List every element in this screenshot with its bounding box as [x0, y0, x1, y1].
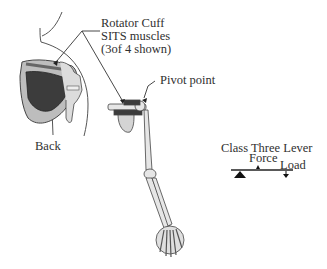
arm-skeleton	[108, 100, 184, 257]
pivot-point-label: Pivot point	[160, 74, 215, 87]
back-label: Back	[35, 140, 61, 153]
scapula-back-view	[20, 60, 82, 123]
load-arrow-icon	[283, 174, 289, 178]
force-label: Force	[249, 152, 277, 165]
load-label: Load	[280, 159, 306, 172]
fulcrum-icon	[234, 171, 246, 178]
force-arrow-icon	[256, 165, 260, 169]
rotator-cuff-label: Rotator Cuff SITS muscles (3of 4 shown)	[101, 17, 171, 56]
rotator-cuff-line-3: (3of 4 shown)	[101, 43, 171, 56]
